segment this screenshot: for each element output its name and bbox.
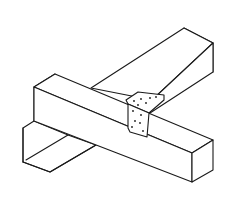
- nail-hole: [131, 126, 133, 128]
- beam-joint-illustration: [0, 0, 228, 198]
- nail-hole: [140, 98, 142, 100]
- nail-hole: [134, 120, 136, 122]
- nail-hole: [142, 130, 144, 132]
- nail-hole: [137, 104, 139, 106]
- nail-hole: [133, 100, 135, 102]
- nail-hole: [132, 110, 134, 112]
- nail-hole: [139, 122, 141, 124]
- nail-hole: [149, 97, 151, 99]
- nail-hole: [155, 96, 157, 98]
- diagram-canvas: Two crossing rectangular timber beams jo…: [0, 0, 228, 198]
- nail-hole: [140, 114, 142, 116]
- nail-hole: [145, 102, 147, 104]
